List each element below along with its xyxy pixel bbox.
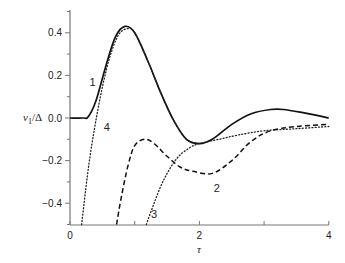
axes: −0.4−0.20.00.20.4024 [42,10,332,241]
curve-label-4: 4 [104,121,110,133]
x-tick-label: 4 [326,230,332,241]
curve-labels: 1423 [90,76,220,220]
curve-label-3: 3 [151,208,157,220]
x-tick-label: 2 [197,230,203,241]
y-axis-label: v1/Δ [23,111,42,126]
curve-4 [82,28,200,224]
y-tick-label: 0.0 [48,113,62,124]
curve-label-1: 1 [90,76,96,88]
curve-3 [146,127,328,225]
y-tick-label: 0.2 [48,70,62,81]
x-tick-label: 0 [67,230,73,241]
curve-label-2: 2 [214,182,220,194]
y-tick-label: −0.4 [42,198,62,209]
y-tick-label: 0.4 [48,27,62,38]
line-chart: −0.4−0.20.00.20.4024 1423 v1/Δ τ [0,0,345,263]
y-tick-label: −0.2 [42,155,62,166]
curve-2 [117,124,329,224]
x-axis-label: τ [197,243,202,255]
